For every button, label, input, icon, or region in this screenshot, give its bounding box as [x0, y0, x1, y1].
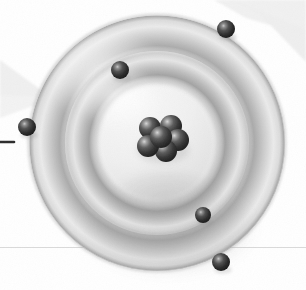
atom-diagram-canvas: Bohr model of the atom Nucleus Outer she…: [0, 0, 306, 290]
grain-overlay: [0, 0, 306, 290]
atom-diagram-svg: [0, 0, 306, 290]
